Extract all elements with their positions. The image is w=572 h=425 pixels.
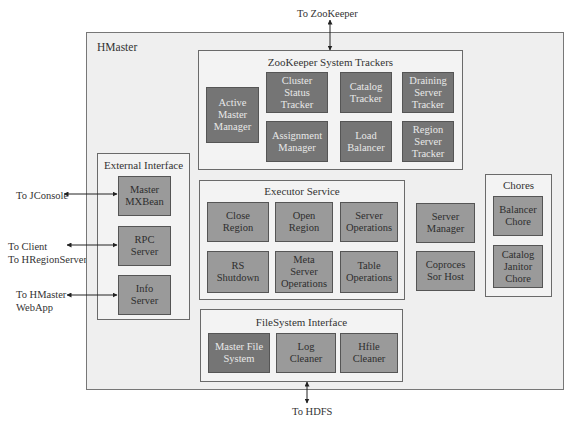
connector-arrows [0, 0, 572, 425]
